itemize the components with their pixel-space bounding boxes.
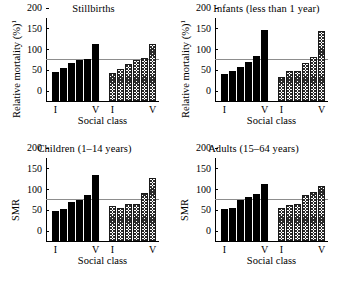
plot-area: 050100150200 [215, 18, 328, 102]
bar-females-IVb [141, 193, 148, 241]
bar-males-II [229, 208, 236, 241]
bar-males-IV [245, 62, 252, 101]
chart-title: Adults (15–64 years) [169, 142, 338, 155]
bar-males-IVb [84, 59, 91, 101]
bar-males-II [60, 68, 67, 101]
bar-males-III [68, 63, 75, 101]
bar-females-II [117, 69, 124, 101]
y-axis-title: SMR [179, 162, 191, 258]
chart-panel-stillbirths: Stillbirths Relative mortality (%)1 0501… [0, 0, 169, 140]
y-axis-title-text: SMR [10, 199, 21, 221]
y-axis-title: Relative mortality (%)1 [11, 22, 23, 118]
bar-males-V [261, 30, 268, 101]
bar-females-IV [302, 195, 309, 241]
x-axis-line [46, 241, 159, 242]
y-tick-mark [46, 8, 49, 9]
chart-title: Infants (less than 1 year) [169, 2, 338, 15]
bar-group-males [52, 158, 100, 241]
y-tick-50: 50 [201, 65, 215, 75]
x-tick-V-3: V [318, 104, 325, 115]
bar-males-V [92, 175, 99, 241]
bar-females-III [294, 204, 301, 241]
bar-group-males [52, 18, 100, 101]
y-tick-100: 100 [196, 185, 215, 195]
x-axis-title: Social class [215, 255, 328, 267]
bar-females-IV [133, 204, 140, 241]
y-tick-50: 50 [201, 205, 215, 215]
x-tick-I-2: I [111, 104, 114, 115]
bar-males-I [52, 211, 59, 241]
y-tick-150: 150 [196, 164, 215, 174]
y-tick-150: 150 [27, 24, 46, 34]
bar-females-II [286, 71, 293, 101]
x-tick-I-0: I [54, 244, 57, 255]
bar-females-I [109, 73, 116, 101]
chart-panel-children: Children (1–14 years) SMR 050100150200 I… [0, 140, 169, 280]
bar-males-IV [245, 197, 252, 241]
bar-group-males [221, 18, 269, 101]
bar-females-II [286, 205, 293, 241]
x-tick-I-0: I [223, 104, 226, 115]
chart-panel-adults: Adults (15–64 years) SMR 050100150200 IV… [169, 140, 338, 280]
bar-group-females [109, 18, 157, 101]
y-tick-200: 200 [196, 143, 215, 153]
x-axis-line [215, 241, 328, 242]
x-tick-V-1: V [92, 104, 99, 115]
bar-females-I [278, 77, 285, 101]
bar-males-V [92, 44, 99, 101]
y-tick-150: 150 [27, 164, 46, 174]
y-axis-title-superscript: 1 [10, 20, 18, 24]
x-tick-V-3: V [149, 104, 156, 115]
chart-title: Children (1–14 years) [0, 142, 169, 155]
bar-groups [47, 18, 159, 101]
y-tick-200: 200 [196, 3, 215, 13]
bar-group-females [278, 158, 326, 241]
bar-males-IVb [253, 56, 260, 101]
x-tick-V-1: V [261, 104, 268, 115]
bar-males-I [221, 74, 228, 101]
y-tick-100: 100 [196, 45, 215, 55]
bar-group-females [109, 158, 157, 241]
x-tick-V-1: V [261, 244, 268, 255]
plot-area: 050100150200 [215, 158, 328, 242]
x-axis-line [46, 101, 159, 102]
y-axis-title: Relative mortality (%)1 [180, 22, 192, 118]
y-tick-0: 0 [37, 86, 46, 96]
bar-males-I [221, 209, 228, 241]
bar-females-V [318, 186, 325, 241]
y-axis-title-text: SMR [179, 199, 190, 221]
bar-females-V [318, 31, 325, 101]
y-tick-100: 100 [27, 45, 46, 55]
bar-females-I [278, 208, 285, 241]
x-tick-I-2: I [280, 244, 283, 255]
y-axis-title-superscript: 1 [179, 20, 187, 24]
bar-females-II [117, 208, 124, 241]
bar-females-IVb [310, 57, 317, 101]
bar-males-I [52, 72, 59, 101]
x-axis-title: Social class [46, 255, 159, 267]
y-tick-0: 0 [37, 226, 46, 236]
bar-groups [47, 158, 159, 241]
bar-groups [216, 158, 328, 241]
x-axis-title: Social class [215, 115, 328, 127]
x-axis-title: Social class [46, 115, 159, 127]
bar-females-III [294, 71, 301, 101]
bar-females-IVb [141, 58, 148, 101]
bar-females-V [149, 44, 156, 101]
x-tick-I-2: I [280, 104, 283, 115]
x-axis-line [215, 101, 328, 102]
y-tick-200: 200 [27, 3, 46, 13]
x-tick-V-1: V [92, 244, 99, 255]
mortality-figure: Stillbirths Relative mortality (%)1 0501… [0, 0, 338, 281]
x-tick-V-3: V [149, 244, 156, 255]
bar-females-IV [133, 60, 140, 101]
bar-males-III [237, 200, 244, 242]
bar-females-I [109, 206, 116, 241]
bar-males-IV [76, 200, 83, 241]
bar-males-IVb [253, 194, 260, 241]
bar-males-V [261, 184, 268, 241]
bar-groups [216, 18, 328, 101]
y-tick-150: 150 [196, 24, 215, 34]
bar-males-IV [76, 60, 83, 102]
x-tick-I-2: I [111, 244, 114, 255]
